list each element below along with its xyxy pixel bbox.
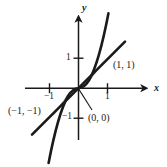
math-figure: y x 1 −1 −1 1 (1, 1) (0, 0) (−1, −1) xyxy=(0,0,167,167)
x-tick-label-pos-one: 1 xyxy=(105,92,110,102)
x-axis-label: x xyxy=(154,83,159,93)
point-label-origin: (0, 0) xyxy=(88,113,110,123)
x-tick-label-neg-one: −1 xyxy=(44,92,54,102)
y-tick-label-pos-one: 1 xyxy=(66,53,71,63)
y-axis-label: y xyxy=(82,3,86,13)
y-tick-label-neg-one: −1 xyxy=(62,112,72,122)
origin-leader-line xyxy=(78,88,92,110)
point-label-neg-one-neg-one: (−1, −1) xyxy=(8,106,41,116)
point-label-one-one: (1, 1) xyxy=(113,60,135,70)
origin-leader-svg xyxy=(0,0,167,167)
